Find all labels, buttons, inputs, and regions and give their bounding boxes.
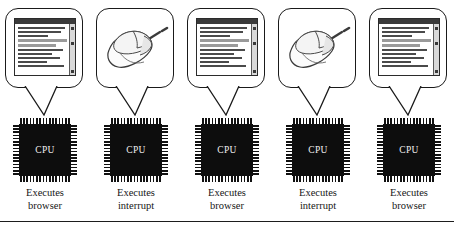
- speech-bubble: [278, 8, 356, 88]
- caption-line-1: Executes: [0, 186, 90, 199]
- diagram-column: CPU Executes browser: [364, 0, 454, 230]
- diagram-column: CPU Executes interrupt: [91, 0, 181, 230]
- bubble-tail-pointer: [24, 86, 66, 116]
- bubble-tail-pointer: [388, 86, 430, 116]
- column-caption: Executes browser: [182, 186, 272, 212]
- text-line: [200, 31, 243, 33]
- speech-bubble: [187, 8, 265, 88]
- speech-bubble: [96, 8, 174, 88]
- browser-window-icon: [378, 18, 440, 76]
- chip-pins-bottom: [111, 176, 161, 182]
- browser-text-lines: [200, 27, 249, 72]
- chip-body: CPU: [383, 124, 435, 176]
- chip-body: CPU: [110, 124, 162, 176]
- column-caption: Executes browser: [364, 186, 454, 212]
- chip-body: CPU: [292, 124, 344, 176]
- text-line: [18, 39, 67, 42]
- text-line: [200, 27, 247, 29]
- caption-line-2: browser: [0, 199, 90, 212]
- scrollbar-arrow-down-icon: [253, 70, 256, 73]
- text-line: [382, 61, 411, 63]
- browser-title-bar: [379, 19, 439, 24]
- chip-pins-right: [344, 125, 350, 175]
- chip-label: CPU: [308, 145, 327, 155]
- bubble-tail-pointer: [297, 86, 339, 116]
- browser-scrollbar: [433, 24, 439, 75]
- browser-scrollbar: [251, 24, 257, 75]
- computer-mouse-icon: [282, 14, 354, 82]
- text-line: [382, 39, 431, 42]
- speech-bubble: [5, 8, 83, 88]
- chip-label: CPU: [217, 145, 236, 155]
- caption-line-1: Executes: [364, 186, 454, 199]
- cpu-chip: CPU: [377, 118, 441, 182]
- cpu-chip: CPU: [286, 118, 350, 182]
- browser-window-icon: [14, 18, 76, 76]
- text-line: [18, 27, 65, 29]
- text-line: [200, 57, 242, 59]
- scrollbar-thumb: [71, 42, 74, 45]
- column-caption: Executes interrupt: [273, 186, 363, 212]
- scrollbar-arrow-down-icon: [435, 70, 438, 73]
- scrollbar-arrow-up-icon: [435, 27, 438, 30]
- diagram-column: CPU Executes interrupt: [273, 0, 363, 230]
- text-line: [200, 39, 249, 42]
- chip-body: CPU: [201, 124, 253, 176]
- chip-body: CPU: [19, 124, 71, 176]
- diagram-column: CPU Executes browser: [0, 0, 90, 230]
- scrollbar-arrow-up-icon: [71, 27, 74, 30]
- text-line: [18, 31, 61, 33]
- caption-line-1: Executes: [273, 186, 363, 199]
- caption-line-1: Executes: [91, 186, 181, 199]
- scrollbar-arrow-down-icon: [71, 70, 74, 73]
- chip-pins-right: [435, 125, 441, 175]
- text-line: [18, 53, 52, 55]
- text-line: [18, 44, 56, 47]
- text-line: [382, 57, 424, 59]
- chip-pins-right: [253, 125, 259, 175]
- text-line: [382, 31, 425, 33]
- text-line: [382, 65, 428, 67]
- text-line: [18, 57, 60, 59]
- cpu-chip: CPU: [195, 118, 259, 182]
- text-line: [200, 49, 245, 51]
- text-line: [200, 35, 230, 37]
- chip-pins-right: [162, 125, 168, 175]
- bubble-tail-pointer: [115, 86, 157, 116]
- text-line: [200, 44, 238, 47]
- chip-label: CPU: [399, 145, 418, 155]
- text-line: [382, 27, 429, 29]
- text-line: [200, 61, 229, 63]
- chip-pins-bottom: [20, 176, 70, 182]
- browser-title-bar: [15, 19, 75, 24]
- text-line: [200, 65, 246, 67]
- chip-label: CPU: [35, 145, 54, 155]
- browser-title-bar: [197, 19, 257, 24]
- scrollbar-thumb: [253, 42, 256, 45]
- figure-bottom-rule: [0, 221, 454, 222]
- column-caption: Executes interrupt: [91, 186, 181, 212]
- text-line: [200, 53, 234, 55]
- chip-pins-bottom: [293, 176, 343, 182]
- caption-line-2: interrupt: [91, 199, 181, 212]
- browser-scrollbar: [69, 24, 75, 75]
- computer-mouse-icon: [100, 14, 172, 82]
- chip-label: CPU: [126, 145, 145, 155]
- speech-bubble: [369, 8, 447, 88]
- caption-line-2: interrupt: [273, 199, 363, 212]
- scrollbar-arrow-up-icon: [253, 27, 256, 30]
- text-line: [18, 65, 64, 67]
- caption-line-2: browser: [182, 199, 272, 212]
- cpu-chip: CPU: [104, 118, 168, 182]
- column-caption: Executes browser: [0, 186, 90, 212]
- cpu-chip: CPU: [13, 118, 77, 182]
- chip-pins-bottom: [202, 176, 252, 182]
- text-line: [382, 49, 427, 51]
- text-line: [382, 35, 412, 37]
- browser-text-lines: [18, 27, 67, 72]
- caption-line-2: browser: [364, 199, 454, 212]
- text-line: [18, 49, 63, 51]
- browser-window-icon: [196, 18, 258, 76]
- text-line: [382, 53, 416, 55]
- bubble-tail-pointer: [206, 86, 248, 116]
